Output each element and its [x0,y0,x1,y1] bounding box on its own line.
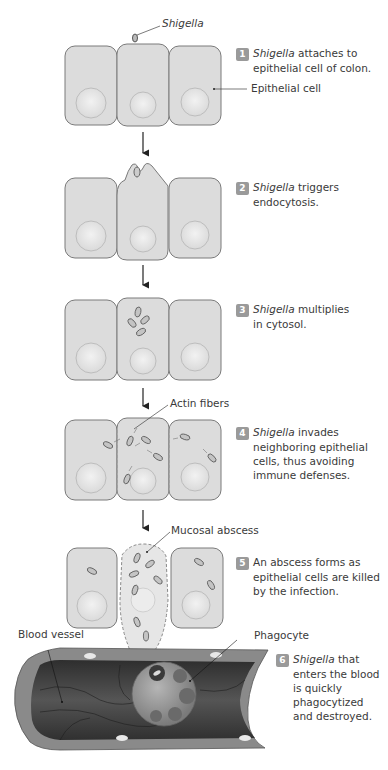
phagocyte [132,662,196,726]
panel-1 [65,26,247,126]
leader-line [137,26,160,35]
panel-5 [67,532,223,656]
shigella-bacterium-icon [134,167,140,177]
shigella-bacterium-icon [133,34,138,42]
label-epithelial-cell: Epithelial cell [251,82,321,94]
nucleus [76,88,106,118]
label-phagocyte: Phagocyte [254,629,309,641]
step-4: 4Shigella invades neighboring epithelial… [236,425,384,482]
step-badge: 1 [236,48,249,61]
step-badge: 6 [276,654,289,667]
step-3: 3Shigella multiplies in cytosol. [236,302,384,331]
step-badge: 5 [236,557,249,570]
step-badge: 3 [236,304,249,317]
step-2: 2Shigella triggers endocytosis. [236,180,384,209]
step-badge: 4 [236,427,249,440]
panel-2 [65,163,221,260]
panel-4 [65,405,221,500]
nucleus [181,88,209,116]
label-blood-vessel: Blood vessel [18,628,84,640]
label-shigella: Shigella [162,17,204,29]
step-5: 5An abscess forms as epithelial cells ar… [236,555,384,598]
nucleus [130,92,156,118]
panel-6 [15,640,268,750]
panel-3 [65,298,221,380]
step-6: 6Shigella that enters the blood is quick… [276,652,386,723]
label-mucosal-abscess: Mucosal abscess [171,524,259,536]
step-1: 1Shigella attaches to epithelial cell of… [236,46,384,75]
label-actin-fibers: Actin fibers [170,397,229,409]
step-badge: 2 [236,182,249,195]
